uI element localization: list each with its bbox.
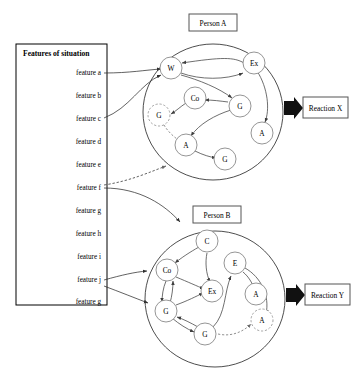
node-b-g2-label: G	[202, 330, 208, 339]
feature-item-e: feature e	[76, 161, 101, 169]
feature-item-i: feature i	[77, 253, 101, 261]
feeder-feature-f-dashed-to-person-a	[104, 166, 166, 185]
person-a-label: Person A	[200, 19, 228, 28]
edge-a-a1-to-g3	[195, 151, 216, 158]
node-b-g1-label: G	[163, 307, 169, 316]
edge-b-g1-to-g2	[172, 318, 194, 332]
edge-a-g1-to-a1	[191, 110, 231, 136]
features-panel: Features of situation feature a feature …	[16, 44, 107, 306]
feature-item-b: feature b	[76, 92, 102, 100]
node-a-a1-label: A	[183, 141, 189, 150]
node-a-ex-label: Ex	[250, 59, 259, 68]
node-a-a2-label: A	[259, 129, 265, 138]
feeder-feature-f-to-person-b	[104, 188, 180, 222]
person-a-group: Person A	[143, 14, 348, 180]
reaction-y-label: Reaction Y	[311, 291, 345, 300]
feature-item-a: feature a	[76, 69, 102, 77]
node-a-g2-label: G	[156, 111, 162, 120]
feature-item-g2: feature g	[76, 298, 102, 306]
node-b-ex-label: Ex	[208, 287, 217, 296]
node-a-g1-label: G	[237, 102, 243, 111]
edge-b-g2-to-a2-dashed	[218, 324, 251, 335]
reaction-x-arrow-icon	[284, 97, 303, 119]
diagram-page: Features of situation feature a feature …	[0, 0, 353, 371]
edge-a-co-to-g2	[171, 103, 186, 114]
person-b-label: Person B	[204, 211, 231, 220]
person-a-nodes: W Ex Co G G A A G	[148, 52, 273, 170]
edge-b-c-to-ex	[206, 253, 210, 282]
features-panel-title: Features of situation	[23, 49, 90, 58]
feature-item-f: feature f	[77, 184, 102, 192]
feature-item-g: feature g	[76, 207, 102, 215]
edge-a-ex-to-w	[182, 59, 244, 64]
feeder-feature-g-to-person-b	[104, 286, 148, 303]
reaction-x-label: Reaction X	[309, 104, 343, 113]
node-a-w-label: W	[168, 64, 175, 73]
features-panel-border	[16, 44, 107, 305]
edge-b-g2-to-g1	[177, 317, 198, 327]
node-b-c-label: C	[205, 237, 210, 246]
feeder-feature-j-to-person-b-co	[104, 271, 147, 280]
diagram-canvas: Features of situation feature a feature …	[0, 0, 353, 371]
node-a-co-label: Co	[191, 94, 200, 103]
feature-item-c: feature c	[76, 115, 101, 123]
edge-b-co-to-ex	[176, 277, 204, 289]
node-b-co-label: Co	[163, 266, 172, 275]
node-b-a2-label: A	[259, 316, 265, 325]
person-b-group: Person B	[145, 206, 350, 367]
feature-item-d: feature d	[76, 138, 102, 146]
node-b-a1-label: A	[253, 290, 259, 299]
reaction-y-arrow-icon	[286, 284, 305, 306]
edge-a-g1-to-co	[205, 100, 228, 102]
edge-b-c-to-co	[175, 247, 199, 263]
feature-item-h: feature h	[76, 230, 102, 238]
edge-b-g1-to-ex	[176, 293, 203, 305]
edge-b-co-to-g1	[162, 281, 166, 302]
feeder-feature-a-to-person-a	[104, 69, 161, 73]
node-b-e-label: E	[233, 259, 238, 268]
edge-b-g1-to-co	[170, 281, 173, 303]
edge-a-ex-to-a2	[257, 71, 268, 122]
node-a-g3-label: G	[222, 155, 228, 164]
feature-item-j: feature j	[77, 276, 101, 284]
